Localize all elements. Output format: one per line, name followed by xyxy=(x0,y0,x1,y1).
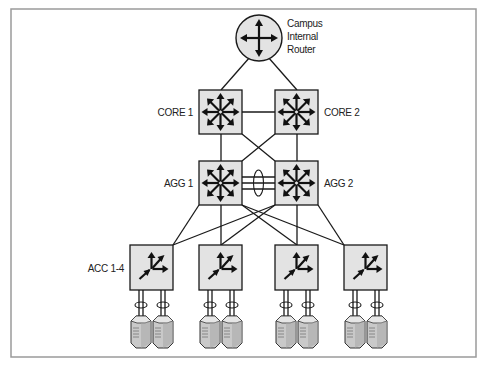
link-agg1-acc4 xyxy=(242,205,344,245)
server-4 xyxy=(222,290,242,348)
multilayer-switch-icon xyxy=(278,93,316,131)
server-icon xyxy=(200,316,220,348)
core1-label: CORE 1 xyxy=(158,107,194,118)
agg2-switch: AGG 2 xyxy=(275,161,354,205)
server-icon xyxy=(131,316,151,348)
link-agg1-acc1 xyxy=(173,205,199,245)
agg2-label: AGG 2 xyxy=(324,178,354,189)
router-label-line3: Router xyxy=(287,44,316,55)
server-8 xyxy=(367,290,387,348)
link-agg1-acc3 xyxy=(242,205,297,245)
servers xyxy=(131,290,387,348)
link-agg2-acc1 xyxy=(173,205,275,245)
acc2-switch xyxy=(199,245,242,290)
link-agg2-acc4 xyxy=(318,205,344,245)
agg1-switch: AGG 1 xyxy=(164,161,242,205)
link-agg2-acc2 xyxy=(221,205,275,245)
server-5 xyxy=(276,290,296,348)
server-icon xyxy=(367,316,387,348)
server-icon xyxy=(298,316,318,348)
router-label-line2: Internal xyxy=(287,31,318,42)
server-2 xyxy=(153,290,173,348)
server-icon xyxy=(276,316,296,348)
router-label-line1: Campus xyxy=(287,18,323,29)
multilayer-switch-icon xyxy=(202,164,240,202)
links xyxy=(173,57,344,245)
multilayer-switch-icon xyxy=(202,93,240,131)
network-diagram: Campus Internal Router CORE 1 CORE 2 AGG… xyxy=(0,0,488,365)
link-router-core1 xyxy=(221,57,250,90)
link-router-core2 xyxy=(268,57,297,90)
server-icon xyxy=(153,316,173,348)
access-label: ACC 1-4 xyxy=(88,263,125,274)
campus-router: Campus Internal Router xyxy=(236,15,323,61)
server-icon xyxy=(222,316,242,348)
core2-label: CORE 2 xyxy=(324,107,360,118)
acc4-switch xyxy=(344,245,387,290)
multilayer-switch-icon xyxy=(278,164,316,202)
agg1-label: AGG 1 xyxy=(164,178,194,189)
core1-switch: CORE 1 xyxy=(158,90,242,134)
server-3 xyxy=(200,290,220,348)
server-1 xyxy=(131,290,151,348)
core2-switch: CORE 2 xyxy=(275,90,360,134)
server-icon xyxy=(345,316,365,348)
acc3-switch xyxy=(275,245,318,290)
server-6 xyxy=(298,290,318,348)
acc1-switch xyxy=(130,245,173,290)
server-7 xyxy=(345,290,365,348)
